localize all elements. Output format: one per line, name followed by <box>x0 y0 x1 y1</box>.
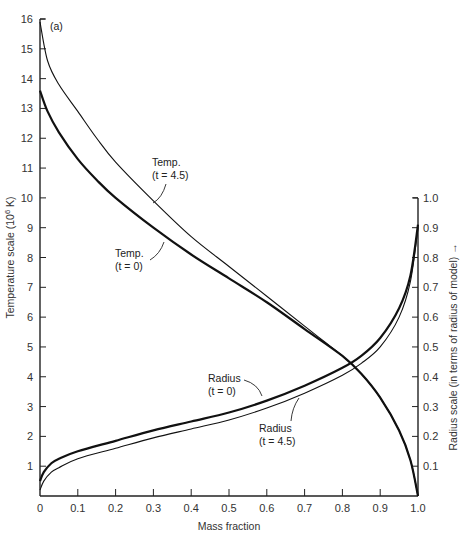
y-tick-label: 10 <box>21 192 33 204</box>
annotation-temp-t45-line2: (t = 4.5) <box>152 169 188 181</box>
y2-tick-label: 0.1 <box>423 460 438 472</box>
y-tick-label: 4 <box>27 371 33 383</box>
x-tick-label: 0.2 <box>108 502 123 514</box>
chart: 00.10.20.30.40.50.60.70.80.91.0123456789… <box>0 0 469 539</box>
y2-tick-label: 0.5 <box>423 341 438 353</box>
annotation-temp-t0-line2: (t = 0) <box>115 260 143 272</box>
y-tick-label: 12 <box>21 132 33 144</box>
y-tick-label: 2 <box>27 430 33 442</box>
x-tick-label: 0.3 <box>146 502 161 514</box>
y2-tick-label: 0.7 <box>423 281 438 293</box>
y-tick-label: 7 <box>27 281 33 293</box>
x-tick-label: 0.1 <box>70 502 85 514</box>
y2-tick-label: 0.4 <box>423 371 438 383</box>
annotation-arrow-temp-t0 <box>150 242 164 260</box>
y-tick-label: 9 <box>27 222 33 234</box>
y-tick-label: 14 <box>21 73 33 85</box>
x-tick-label: 0.7 <box>297 502 312 514</box>
curve-radius-t-0 <box>40 225 418 481</box>
curves <box>40 22 418 496</box>
y2-tick-label: 0.8 <box>423 252 438 264</box>
y-tick-label: 8 <box>27 252 33 264</box>
curve-temp-t-0 <box>40 91 418 496</box>
x-tick-label: 0.6 <box>259 502 274 514</box>
x-tick-label: 0.9 <box>373 502 388 514</box>
y2-tick-label: 0.6 <box>423 311 438 323</box>
y-tick-label: 11 <box>22 162 33 174</box>
annotation-arrow-radius-t45 <box>291 398 299 421</box>
annotation-arrow-temp-t45 <box>153 184 166 203</box>
y2-tick-label: 0.3 <box>423 401 438 413</box>
y-tick-label: 5 <box>27 341 33 353</box>
y-tick-label: 15 <box>21 43 33 55</box>
y2-tick-label: 1.0 <box>423 192 438 204</box>
y-tick-label: 16 <box>21 13 33 25</box>
annotation-radius-t45-line1: Radius <box>259 422 292 434</box>
y-tick-label: 3 <box>27 401 33 413</box>
y-tick-label: 1 <box>27 460 33 472</box>
x-tick-label: 0 <box>37 502 43 514</box>
x-tick-label: 0.5 <box>221 502 236 514</box>
y2-tick-label: 0.9 <box>423 222 438 234</box>
annotation-arrow-radius-t0 <box>244 380 262 396</box>
y-axis-title: Temperature scale (106 K) <box>3 196 16 318</box>
curve-temp-t-4-5 <box>40 22 418 496</box>
y2-axis-title: Radius scale (in terms of radius of mode… <box>447 243 459 450</box>
panel-label: (a) <box>50 20 63 32</box>
annotation-temp-t45-line1: Temp. <box>152 156 181 168</box>
annotation-radius-t0-line2: (t = 0) <box>208 385 236 397</box>
x-axis-title: Mass fraction <box>198 520 261 532</box>
labels: (a) Temp. (t = 4.5) Temp. (t = 0) Radius… <box>50 20 299 447</box>
annotation-temp-t0-line1: Temp. <box>115 247 144 259</box>
y2-tick-label: 0.2 <box>423 430 438 442</box>
x-tick-label: 1.0 <box>410 502 425 514</box>
y-tick-label: 13 <box>21 102 33 114</box>
x-tick-label: 0.4 <box>184 502 199 514</box>
x-tick-label: 0.8 <box>335 502 350 514</box>
annotation-radius-t45-line2: (t = 4.5) <box>259 435 295 447</box>
annotation-radius-t0-line1: Radius <box>208 372 241 384</box>
y-tick-label: 6 <box>27 311 33 323</box>
